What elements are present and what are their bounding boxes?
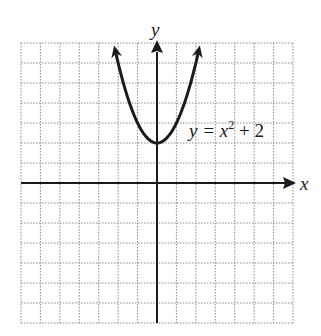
graph: y x y = x2 + 2: [0, 0, 321, 336]
y-axis-arrow-icon: [151, 40, 163, 53]
equation-label: y = x2 + 2: [187, 118, 264, 141]
axes: [21, 40, 296, 323]
y-axis-label: y: [149, 19, 160, 40]
x-axis-label: x: [299, 173, 309, 194]
